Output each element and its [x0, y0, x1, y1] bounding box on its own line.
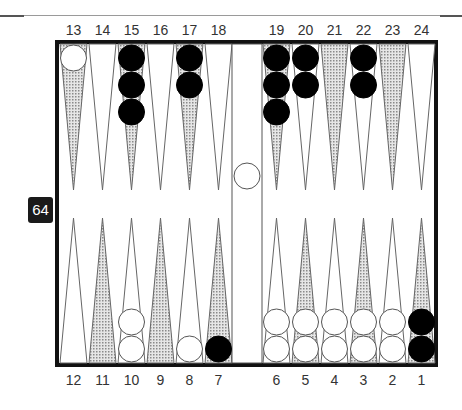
black-checker-point-20[interactable] [293, 45, 319, 71]
point-12[interactable] [60, 218, 87, 363]
point-24[interactable] [408, 44, 435, 190]
white-checker-point-4[interactable] [322, 336, 348, 362]
black-checker-point-20[interactable] [293, 72, 319, 98]
black-checker-point-22[interactable] [351, 45, 377, 71]
point-23[interactable] [379, 44, 406, 190]
black-checker-point-15[interactable] [119, 72, 145, 98]
point-9[interactable] [147, 218, 174, 363]
white-checker-point-3[interactable] [351, 309, 377, 335]
white-checker-bar[interactable] [234, 163, 260, 189]
white-checker-point-3[interactable] [351, 336, 377, 362]
point-11[interactable] [89, 218, 116, 363]
white-checker-point-13[interactable] [61, 45, 87, 71]
point-18[interactable] [205, 44, 232, 190]
white-checker-point-10[interactable] [119, 309, 145, 335]
white-checker-point-5[interactable] [293, 336, 319, 362]
white-checker-point-2[interactable] [380, 309, 406, 335]
white-checker-point-2[interactable] [380, 336, 406, 362]
bar[interactable] [232, 44, 262, 363]
black-checker-point-19[interactable] [264, 99, 290, 125]
black-checker-point-19[interactable] [264, 45, 290, 71]
white-checker-point-10[interactable] [119, 336, 145, 362]
black-checker-point-22[interactable] [351, 72, 377, 98]
black-checker-point-17[interactable] [177, 45, 203, 71]
point-16[interactable] [147, 44, 174, 190]
white-checker-point-8[interactable] [177, 336, 203, 362]
black-checker-point-15[interactable] [119, 99, 145, 125]
white-checker-point-4[interactable] [322, 309, 348, 335]
white-checker-point-6[interactable] [264, 336, 290, 362]
black-checker-point-17[interactable] [177, 72, 203, 98]
black-checker-point-7[interactable] [206, 336, 232, 362]
white-checker-point-6[interactable] [264, 309, 290, 335]
white-checker-point-5[interactable] [293, 309, 319, 335]
point-14[interactable] [89, 44, 116, 190]
black-checker-point-1[interactable] [409, 336, 435, 362]
board-graphics [0, 0, 462, 410]
black-checker-point-15[interactable] [119, 45, 145, 71]
point-21[interactable] [321, 44, 348, 190]
black-checker-point-19[interactable] [264, 72, 290, 98]
black-checker-point-1[interactable] [409, 309, 435, 335]
